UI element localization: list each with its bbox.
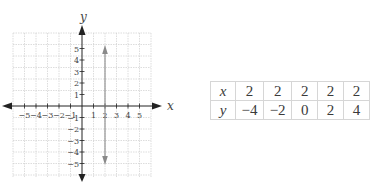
x-axis-left-arrow-icon bbox=[2, 103, 12, 110]
table-cell: 2 bbox=[292, 82, 318, 101]
table-cell: 2 bbox=[344, 82, 370, 101]
table-cell: 2 bbox=[235, 82, 263, 101]
x-axis-right-arrow-icon bbox=[152, 103, 162, 110]
y-axis-down-arrow-icon bbox=[79, 174, 86, 182]
x-tick-label: 4 bbox=[125, 111, 130, 120]
x-tick-label: −4 bbox=[30, 111, 42, 120]
y-tick-label: 3 bbox=[74, 68, 79, 77]
y-tick-label: −5 bbox=[67, 160, 79, 169]
y-tick-label: −3 bbox=[67, 137, 79, 146]
table-row-x: x 2 2 2 2 2 bbox=[211, 82, 370, 101]
row-header-x: x bbox=[211, 82, 236, 101]
y-tick-label: 2 bbox=[74, 79, 79, 88]
x-tick-label: −3 bbox=[42, 111, 54, 120]
y-axis-label: y bbox=[79, 10, 87, 24]
x-axis-label: x bbox=[167, 99, 174, 113]
table-cell: −2 bbox=[264, 101, 292, 120]
y-tick-label: 4 bbox=[74, 56, 79, 65]
x-axis: x −5 −4 −3 −2 −1 1 2 3 4 5 bbox=[2, 99, 174, 120]
x-tick-label: 1 bbox=[91, 111, 96, 120]
row-header-y: y bbox=[211, 101, 236, 120]
y-tick-label: 1 bbox=[74, 91, 79, 100]
table-cell: 2 bbox=[318, 101, 344, 120]
table-row-y: y −4 −2 0 2 4 bbox=[211, 101, 370, 120]
y-tick-label: −2 bbox=[67, 125, 79, 134]
line-x-equals-2 bbox=[102, 45, 108, 165]
y-axis-up-arrow-icon bbox=[79, 25, 86, 35]
x-tick-label: 5 bbox=[137, 111, 142, 120]
table-cell: 2 bbox=[318, 82, 344, 101]
xy-values-table: x 2 2 2 2 2 y −4 −2 0 2 4 bbox=[210, 81, 370, 120]
y-tick-label: 5 bbox=[74, 45, 79, 54]
y-tick-label: −1 bbox=[67, 114, 79, 123]
x-tick-label: −2 bbox=[53, 111, 65, 120]
table-cell: −4 bbox=[235, 101, 263, 120]
coordinate-graph: x −5 −4 −3 −2 −1 1 2 3 4 5 bbox=[0, 0, 190, 182]
table-cell: 0 bbox=[292, 101, 318, 120]
table-cell: 4 bbox=[344, 101, 370, 120]
line-up-arrow-icon bbox=[102, 45, 108, 54]
x-tick-label: −5 bbox=[19, 111, 31, 120]
table-cell: 2 bbox=[264, 82, 292, 101]
x-tick-label: 3 bbox=[114, 111, 119, 120]
y-tick-label: −4 bbox=[67, 148, 79, 157]
